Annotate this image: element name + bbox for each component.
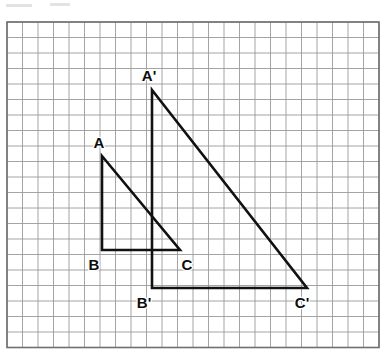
vertex-label-b-prime: B' xyxy=(137,294,151,311)
geometry-canvas: ABCA'B'C' xyxy=(0,0,389,353)
vertex-labels: ABCA'B'C' xyxy=(89,67,310,311)
vertex-label-a: A xyxy=(94,134,105,151)
triangle-A-prime-B-prime-C-prime xyxy=(152,90,307,288)
triangle-ABC xyxy=(102,156,180,250)
triangle-shapes xyxy=(102,90,307,288)
grid-lines xyxy=(7,22,379,348)
vertex-label-b: B xyxy=(89,256,100,273)
vertex-label-a-prime: A' xyxy=(142,67,156,84)
vertex-label-c: C xyxy=(182,256,193,273)
vertex-label-c-prime: C' xyxy=(295,294,309,311)
geometry-figure: ABCA'B'C' xyxy=(0,0,389,353)
